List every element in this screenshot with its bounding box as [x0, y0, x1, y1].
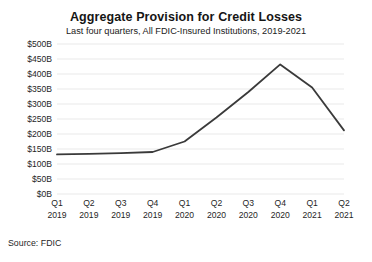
y-tick-label: $200B	[27, 129, 52, 139]
data-line	[57, 64, 344, 154]
y-axis: $0B$50B$100B$150B$200B$250B$300B$350B$40…	[0, 44, 52, 194]
x-tick-quarter: Q1	[40, 198, 74, 210]
y-tick-label: $50B	[32, 174, 52, 184]
x-tick-quarter: Q3	[104, 198, 138, 210]
y-tick-label: $100B	[27, 159, 52, 169]
y-tick-label: $250B	[27, 114, 52, 124]
x-tick-year: 2019	[104, 210, 138, 222]
x-tick-quarter: Q3	[231, 198, 265, 210]
x-tick-label: Q12021	[295, 198, 329, 221]
x-tick-year: 2020	[199, 210, 233, 222]
x-tick-label: Q22020	[199, 198, 233, 221]
y-tick-label: $300B	[27, 99, 52, 109]
y-tick-label: $500B	[27, 39, 52, 49]
x-tick-label: Q42020	[263, 198, 297, 221]
x-tick-label: Q32020	[231, 198, 265, 221]
x-tick-year: 2021	[295, 210, 329, 222]
x-tick-year: 2021	[327, 210, 361, 222]
x-tick-quarter: Q4	[136, 198, 170, 210]
x-tick-quarter: Q4	[263, 198, 297, 210]
chart-title: Aggregate Provision for Credit Losses	[0, 10, 372, 24]
x-tick-label: Q42019	[136, 198, 170, 221]
x-tick-year: 2019	[136, 210, 170, 222]
x-tick-year: 2019	[72, 210, 106, 222]
x-tick-year: 2020	[231, 210, 265, 222]
y-tick-label: $450B	[27, 54, 52, 64]
y-tick-label: $400B	[27, 69, 52, 79]
x-tick-quarter: Q2	[327, 198, 361, 210]
source-note: Source: FDIC	[8, 238, 61, 248]
x-tick-label: Q22019	[72, 198, 106, 221]
x-tick-quarter: Q1	[295, 198, 329, 210]
chart-figure: Aggregate Provision for Credit Losses La…	[0, 0, 372, 262]
y-tick-label: $150B	[27, 144, 52, 154]
chart-subtitle: Last four quarters, All FDIC-Insured Ins…	[0, 26, 372, 36]
series-line-provisions	[57, 44, 344, 194]
x-tick-quarter: Q2	[72, 198, 106, 210]
x-tick-label: Q32019	[104, 198, 138, 221]
x-tick-year: 2020	[168, 210, 202, 222]
x-tick-year: 2019	[40, 210, 74, 222]
x-tick-quarter: Q1	[168, 198, 202, 210]
x-axis: Q12019Q22019Q32019Q42019Q12020Q22020Q320…	[57, 198, 344, 228]
x-tick-quarter: Q2	[199, 198, 233, 210]
x-tick-year: 2020	[263, 210, 297, 222]
plot-area	[57, 44, 344, 194]
y-tick-label: $350B	[27, 84, 52, 94]
x-tick-label: Q12019	[40, 198, 74, 221]
x-tick-label: Q22021	[327, 198, 361, 221]
x-tick-label: Q12020	[168, 198, 202, 221]
